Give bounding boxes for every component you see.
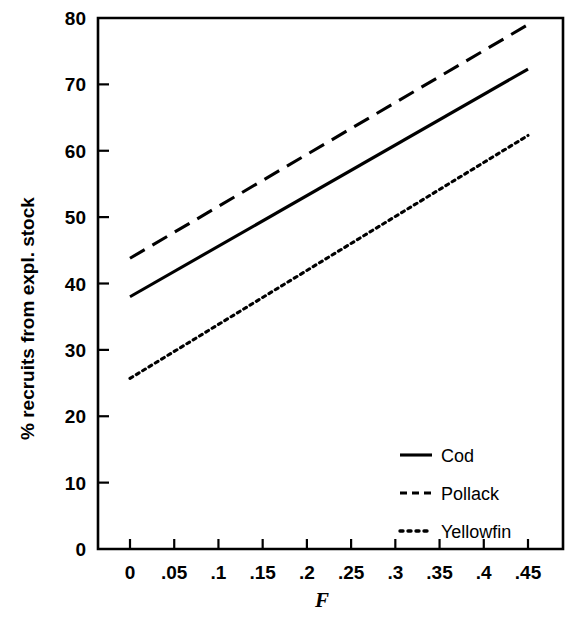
y-tick-label: 40 [65, 274, 86, 295]
series-line-yellowfin [130, 135, 528, 378]
series-line-cod [130, 69, 528, 297]
y-tick-label: 30 [65, 340, 86, 361]
x-tick-label: 0 [125, 562, 136, 583]
legend: CodPollackYellowfin [400, 446, 511, 542]
x-tick-label: .05 [161, 562, 188, 583]
y-tick-label: 0 [75, 539, 86, 560]
x-tick-label: .4 [476, 562, 492, 583]
y-tick-label: 20 [65, 406, 86, 427]
data-series-group [130, 25, 528, 379]
y-tick-label: 80 [65, 8, 86, 29]
x-tick-label: .2 [299, 562, 315, 583]
y-axis-title: % recruits from expl. stock [17, 197, 38, 440]
x-axis-tick-labels: 0.05.1.15.2.25.3.35.4.45 [125, 562, 542, 583]
series-line-pollack [130, 25, 528, 259]
x-tick-label: .3 [387, 562, 403, 583]
x-tick-label: .45 [515, 562, 542, 583]
legend-label-yellowfin: Yellowfin [441, 522, 511, 542]
line-chart: 01020304050607080 0.05.1.15.2.25.3.35.4.… [0, 0, 585, 619]
x-axis-title: F [314, 588, 329, 612]
y-tick-label: 70 [65, 74, 86, 95]
y-tick-label: 60 [65, 141, 86, 162]
legend-label-pollack: Pollack [441, 484, 500, 504]
x-tick-label: .35 [426, 562, 453, 583]
y-tick-label: 10 [65, 473, 86, 494]
chart-figure: 01020304050607080 0.05.1.15.2.25.3.35.4.… [0, 0, 585, 619]
plot-frame [98, 18, 563, 549]
y-axis-ticks [98, 84, 109, 482]
x-tick-label: .15 [249, 562, 276, 583]
y-tick-label: 50 [65, 207, 86, 228]
x-tick-label: .25 [338, 562, 365, 583]
x-tick-label: .1 [211, 562, 227, 583]
y-axis-tick-labels: 01020304050607080 [65, 8, 86, 560]
legend-label-cod: Cod [441, 446, 474, 466]
